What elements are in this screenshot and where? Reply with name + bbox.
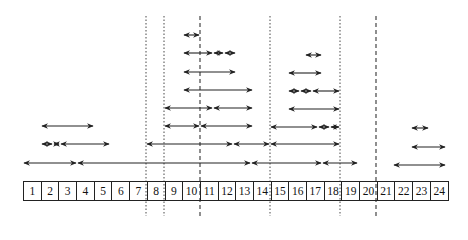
index-cell: 2 <box>42 182 60 200</box>
index-cell: 18 <box>325 182 343 200</box>
index-cell: 5 <box>95 182 113 200</box>
index-cell: 8 <box>148 182 166 200</box>
index-cell: 14 <box>254 182 272 200</box>
index-cell: 12 <box>219 182 237 200</box>
index-cell: 4 <box>77 182 95 200</box>
index-cell: 20 <box>360 182 378 200</box>
index-cell: 23 <box>413 182 431 200</box>
index-cell: 24 <box>431 182 449 200</box>
index-cell: 15 <box>272 182 290 200</box>
index-cell: 21 <box>378 182 396 200</box>
index-cell: 17 <box>307 182 325 200</box>
index-cell: 19 <box>342 182 360 200</box>
index-cell: 10 <box>183 182 201 200</box>
index-cell: 1 <box>24 182 42 200</box>
index-cell: 6 <box>112 182 130 200</box>
index-cell-row: 123456789101112131415161718192021222324 <box>23 181 449 201</box>
interval-arrows <box>24 35 445 165</box>
index-cell: 11 <box>201 182 219 200</box>
index-cell: 16 <box>289 182 307 200</box>
index-cell: 22 <box>395 182 413 200</box>
index-cell: 3 <box>59 182 77 200</box>
index-cell: 13 <box>236 182 254 200</box>
index-cell: 9 <box>166 182 184 200</box>
index-cell: 7 <box>130 182 148 200</box>
